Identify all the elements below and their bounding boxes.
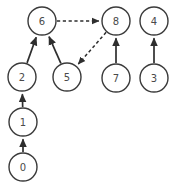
edge-5-to-6 bbox=[49, 37, 61, 64]
edge-layer bbox=[22, 21, 154, 152]
node-2[interactable]: 2 bbox=[8, 63, 36, 91]
node-3[interactable]: 3 bbox=[140, 64, 168, 92]
node-1[interactable]: 1 bbox=[9, 108, 37, 136]
graph-canvas: 012345678 bbox=[0, 0, 181, 191]
node-label-2: 2 bbox=[19, 72, 25, 83]
node-0[interactable]: 0 bbox=[9, 153, 37, 181]
node-label-5: 5 bbox=[64, 72, 70, 83]
edge-2-to-6 bbox=[27, 37, 36, 63]
node-4[interactable]: 4 bbox=[140, 7, 168, 35]
edge-8-to-5 bbox=[78, 32, 106, 64]
node-6[interactable]: 6 bbox=[28, 7, 56, 35]
node-layer: 012345678 bbox=[8, 7, 168, 181]
node-7[interactable]: 7 bbox=[102, 64, 130, 92]
node-label-3: 3 bbox=[151, 73, 157, 84]
node-label-6: 6 bbox=[39, 16, 45, 27]
graph-diagram: 012345678 bbox=[0, 0, 181, 191]
node-label-0: 0 bbox=[20, 162, 26, 173]
node-5[interactable]: 5 bbox=[53, 63, 81, 91]
node-label-4: 4 bbox=[151, 16, 157, 27]
node-label-7: 7 bbox=[113, 73, 119, 84]
node-8[interactable]: 8 bbox=[102, 7, 130, 35]
node-label-1: 1 bbox=[20, 117, 26, 128]
node-label-8: 8 bbox=[113, 16, 119, 27]
